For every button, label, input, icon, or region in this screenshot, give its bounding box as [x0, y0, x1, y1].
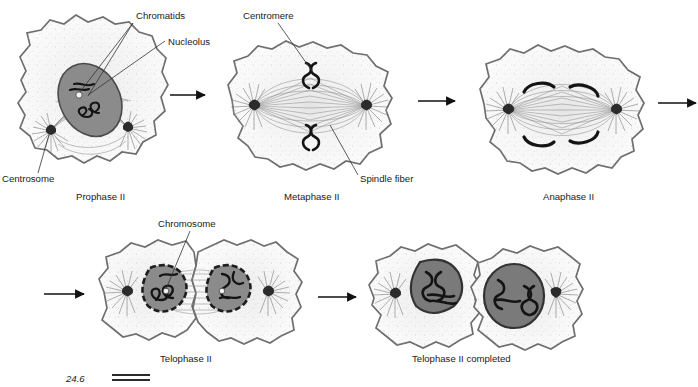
nuclear-envelope-telophase-right	[206, 265, 250, 311]
stage-label-metaphase-2: Metaphase II	[284, 191, 339, 202]
nucleus-completed-right	[484, 264, 544, 328]
callout-label-centromere: Centromere	[243, 10, 294, 21]
artifact-figure-number: 24.6	[65, 373, 85, 384]
callout-label-chromatids: Chromatids	[136, 10, 185, 21]
nucleolus-body-prophase	[76, 92, 82, 98]
nucleus-completed-left	[411, 260, 462, 313]
diagram-svg: ChromatidsNucleolusCentrosomeCentromereS…	[0, 0, 698, 387]
nuclear-envelope-completed-right	[484, 264, 544, 328]
cell-telophase-2-completed-left	[369, 244, 481, 348]
nucleus-telophase-right	[206, 265, 250, 311]
callout-label-nucleolus: Nucleolus	[168, 36, 210, 47]
stage-label-prophase-2: Prophase II	[76, 191, 125, 202]
nucleolus-telophase-left	[163, 288, 169, 294]
stage-label-anaphase-2: Anaphase II	[543, 191, 594, 202]
callout-label-centrosome: Centrosome	[2, 173, 54, 184]
callout-label-spindle-fiber: Spindle fiber	[360, 173, 414, 184]
cell-telophase-2-completed-right	[471, 246, 583, 350]
cell-prophase-2	[18, 15, 168, 163]
meiosis-diagram-canvas: ChromatidsNucleolusCentrosomeCentromereS…	[0, 0, 698, 387]
callout-label-chromosome: Chromosome	[158, 218, 216, 229]
artifact-rule-bottom	[112, 379, 150, 381]
cell-anaphase-2	[480, 45, 644, 174]
nucleolus-telophase-right	[219, 288, 225, 294]
stage-label-telophase-2: Telophase II	[160, 353, 212, 364]
stage-label-telophase-2-completed: Telophase II completed	[412, 353, 511, 364]
cell-metaphase-2	[228, 41, 392, 170]
artifact-rule-top	[112, 374, 150, 376]
nucleus-telophase-left	[142, 265, 186, 311]
